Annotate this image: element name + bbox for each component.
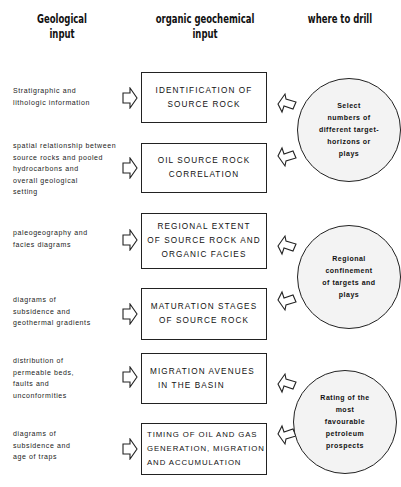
circle-text: different target- bbox=[319, 124, 379, 136]
text-line: spatial relationship between bbox=[13, 140, 116, 152]
arrow-right-icon bbox=[122, 303, 138, 325]
circle-text: Select bbox=[337, 100, 361, 112]
text-line: geothermal gradients bbox=[13, 317, 91, 329]
arrow-right-icon bbox=[122, 157, 138, 179]
geological-input-5: distribution of permeable beds, faults a… bbox=[13, 355, 74, 401]
box-text: GENERATION, MIGRATION bbox=[147, 442, 265, 456]
box-text: IN THE BASIN bbox=[150, 379, 225, 393]
circle-text: horizons or bbox=[327, 136, 371, 148]
header-line: where to drill bbox=[299, 12, 381, 27]
geochemical-box-identification: IDENTIFICATION OF SOURCE ROCK bbox=[141, 72, 267, 123]
circle-text: Regional bbox=[332, 253, 366, 265]
arrow-diagonal-down-icon bbox=[276, 234, 298, 256]
circle-text: prospects bbox=[326, 440, 364, 452]
arrow-diagonal-down-icon bbox=[276, 372, 298, 394]
text-line: faults and bbox=[13, 378, 74, 390]
header-where-to-drill: where to drill bbox=[299, 12, 381, 27]
text-line: setting bbox=[13, 186, 116, 198]
text-line: facies diagrams bbox=[13, 239, 88, 251]
box-text: MATURATION STAGES bbox=[151, 300, 258, 314]
outcome-circle-prospect-rating: Rating of the most favourable petroleum … bbox=[293, 370, 397, 474]
geochemical-box-correlation: OIL SOURCE ROCK CORRELATION bbox=[141, 143, 267, 193]
arrow-right-icon bbox=[122, 366, 138, 388]
geological-input-6: diagrams of subsidence and age of traps bbox=[13, 428, 70, 463]
circle-text: favourable bbox=[325, 416, 365, 428]
geochemical-box-timing: TIMING OF OIL AND GAS GENERATION, MIGRAT… bbox=[141, 423, 267, 475]
header-line: organic geochemical bbox=[144, 12, 267, 27]
arrow-right-icon bbox=[122, 87, 138, 109]
text-line: overall geological bbox=[13, 175, 116, 187]
header-line: input bbox=[144, 27, 267, 42]
text-line: diagrams of bbox=[13, 294, 91, 306]
text-line: subsidence and bbox=[13, 440, 70, 452]
box-text: SOURCE ROCK bbox=[167, 98, 240, 112]
geochemical-box-migration: MIGRATION AVENUES IN THE BASIN bbox=[141, 353, 267, 404]
box-text: TIMING OF OIL AND GAS bbox=[147, 428, 257, 442]
arrow-diagonal-up-icon bbox=[276, 290, 298, 312]
box-text: OIL SOURCE ROCK bbox=[158, 154, 251, 168]
geochemical-box-regional-extent: REGIONAL EXTENT OF SOURCE ROCK AND ORGAN… bbox=[141, 213, 267, 269]
circle-text: most bbox=[336, 404, 355, 416]
circle-text: of targets and bbox=[322, 277, 375, 289]
box-text: REGIONAL EXTENT bbox=[157, 220, 250, 234]
header-line: input bbox=[29, 27, 95, 42]
text-line: unconformities bbox=[13, 390, 74, 402]
text-line: age of traps bbox=[13, 451, 70, 463]
text-line: Stratigraphic and bbox=[13, 85, 90, 97]
box-text: IDENTIFICATION OF bbox=[156, 84, 253, 98]
header-organic-geochemical-input: organic geochemical input bbox=[144, 12, 267, 42]
text-line: permeable beds, bbox=[13, 367, 74, 379]
arrow-diagonal-up-icon bbox=[276, 146, 298, 168]
box-text: MIGRATION AVENUES bbox=[150, 365, 255, 379]
text-line: paleogeography and bbox=[13, 227, 88, 239]
arrow-diagonal-down-icon bbox=[276, 92, 298, 114]
box-text: OF SOURCE ROCK AND bbox=[147, 234, 261, 248]
circle-text: Rating of the bbox=[320, 392, 369, 404]
geological-input-3: paleogeography and facies diagrams bbox=[13, 227, 88, 250]
geological-input-2: spatial relationship between source rock… bbox=[13, 140, 116, 198]
geological-input-4: diagrams of subsidence and geothermal gr… bbox=[13, 294, 91, 329]
box-text: AND ACCUMULATION bbox=[147, 456, 241, 470]
arrow-right-icon bbox=[122, 438, 138, 460]
box-text: OF SOURCE ROCK bbox=[159, 314, 249, 328]
circle-text: numbers of bbox=[327, 112, 370, 124]
geochemical-box-maturation: MATURATION STAGES OF SOURCE ROCK bbox=[141, 288, 267, 340]
text-line: source rocks and pooled bbox=[13, 152, 116, 164]
outcome-circle-regional-confinement: Regional confinement of targets and play… bbox=[297, 225, 401, 329]
text-line: diagrams of bbox=[13, 428, 70, 440]
circle-text: plays bbox=[339, 289, 359, 301]
header-geological-input: Geological input bbox=[29, 12, 95, 42]
circle-text: plays bbox=[339, 148, 359, 160]
circle-text: petroleum bbox=[326, 428, 364, 440]
text-line: subsidence and bbox=[13, 306, 91, 318]
text-line: distribution of bbox=[13, 355, 74, 367]
text-line: hydrocarbons and bbox=[13, 163, 116, 175]
outcome-circle-target-horizons: Select numbers of different target- hori… bbox=[297, 78, 401, 182]
box-text: CORRELATION bbox=[169, 168, 240, 182]
circle-text: confinement bbox=[325, 265, 372, 277]
arrow-right-icon bbox=[122, 229, 138, 251]
geological-input-1: Stratigraphic and lithologic information bbox=[13, 85, 90, 108]
box-text: ORGANIC FACIES bbox=[161, 248, 246, 262]
text-line: lithologic information bbox=[13, 97, 90, 109]
header-line: Geological bbox=[29, 12, 95, 27]
